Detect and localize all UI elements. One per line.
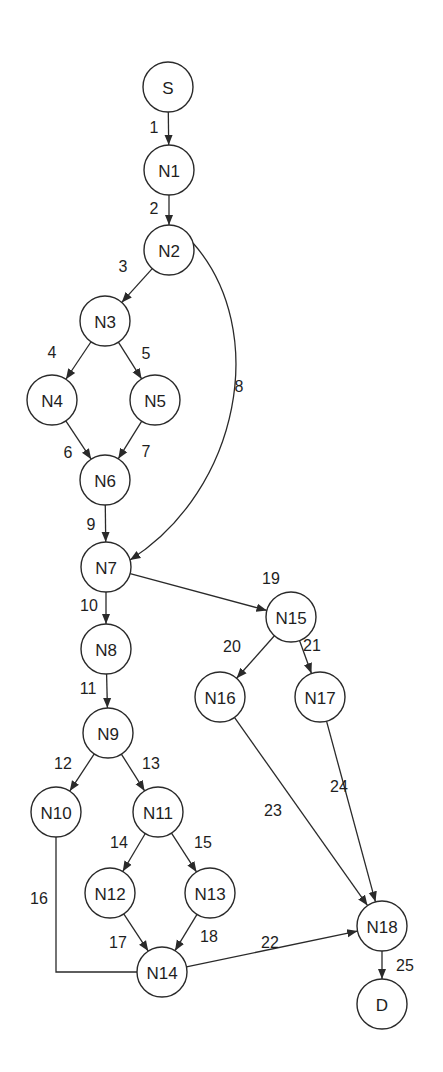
- edge-label: 22: [261, 934, 279, 951]
- node-label: N13: [194, 885, 225, 904]
- edge-label: 3: [119, 258, 128, 275]
- node-n16: N16: [195, 672, 245, 722]
- edge-label: 1: [150, 119, 159, 136]
- node-label: N3: [94, 313, 116, 332]
- node-n18: N18: [357, 901, 407, 951]
- edge-N15-N16: [237, 636, 275, 679]
- node-label: N12: [94, 885, 125, 904]
- nodes-layer: SN1N2N3N4N5N6N7N8N9N10N11N12N13N14N15N16…: [27, 62, 407, 1029]
- node-n3: N3: [80, 296, 130, 346]
- node-label: N10: [40, 804, 71, 823]
- edge-label: 12: [54, 755, 72, 772]
- edge-label: 18: [200, 928, 218, 945]
- node-n10: N10: [31, 787, 81, 837]
- node-label: N18: [366, 918, 397, 937]
- edge-label: 9: [87, 516, 96, 533]
- edge-label: 13: [142, 755, 160, 772]
- node-n2: N2: [144, 225, 194, 275]
- node-n5: N5: [130, 375, 180, 425]
- control-flow-graph: 1234567891011121314151617181920212223242…: [0, 0, 443, 1072]
- edge-N12-N14: [124, 914, 149, 951]
- node-label: N9: [97, 725, 119, 744]
- node-label: D: [376, 996, 388, 1015]
- node-n15: N15: [266, 592, 316, 642]
- node-label: N5: [144, 392, 166, 411]
- node-label: N17: [304, 689, 335, 708]
- edge-label: 11: [80, 680, 97, 697]
- node-d: D: [357, 979, 407, 1029]
- node-label: N6: [94, 472, 116, 491]
- node-label: N16: [204, 689, 235, 708]
- edge-N5-N6: [118, 421, 142, 459]
- edge-label: 25: [396, 957, 414, 974]
- edge-N11-N13: [172, 833, 197, 872]
- edge-label: 10: [80, 597, 98, 614]
- node-label: N2: [158, 242, 180, 261]
- edge-N17-N18: [327, 721, 376, 902]
- edge-label: 8: [235, 378, 244, 395]
- node-s: S: [143, 62, 193, 112]
- edge-N8-N9: [107, 674, 108, 708]
- node-n14: N14: [137, 947, 187, 997]
- edge-label: 21: [303, 637, 321, 654]
- node-label: N11: [143, 804, 173, 823]
- edge-label: 6: [64, 444, 73, 461]
- node-label: N7: [95, 559, 117, 578]
- node-n17: N17: [295, 672, 345, 722]
- node-label: N8: [95, 641, 117, 660]
- edge-label: 23: [264, 802, 282, 819]
- node-n6: N6: [80, 455, 130, 505]
- node-label: N4: [41, 392, 63, 411]
- edge-N7-N15: [130, 574, 267, 611]
- edge-N3-N4: [66, 342, 91, 379]
- node-n9: N9: [83, 708, 133, 758]
- node-label: S: [162, 79, 173, 98]
- edge-label: 19: [262, 570, 280, 587]
- edge-N16-N18: [234, 717, 367, 905]
- edge-label: 4: [48, 344, 57, 361]
- edge-label: 14: [110, 834, 128, 851]
- edge-labels-layer: 1234567891011121314151617181920212223242…: [30, 119, 414, 974]
- edge-label: 24: [330, 778, 348, 795]
- node-label: N15: [275, 609, 306, 628]
- edge-label: 7: [142, 443, 151, 460]
- node-n13: N13: [185, 868, 235, 918]
- edge-label: 2: [150, 200, 159, 217]
- node-n12: N12: [85, 868, 135, 918]
- node-label: N14: [146, 964, 177, 983]
- edge-N9-N10: [70, 754, 95, 791]
- edge-label: 15: [194, 834, 212, 851]
- node-n1: N1: [144, 145, 194, 195]
- edge-N3-N5: [118, 342, 141, 379]
- node-n7: N7: [81, 542, 131, 592]
- edge-label: 17: [109, 934, 127, 951]
- edge-label: 20: [223, 638, 241, 655]
- node-n8: N8: [81, 624, 131, 674]
- node-n4: N4: [27, 375, 77, 425]
- edge-label: 16: [30, 890, 48, 907]
- node-n11: N11: [133, 787, 183, 837]
- edge-N13-N14: [175, 914, 197, 950]
- edge-label: 5: [142, 345, 151, 362]
- node-label: N1: [158, 162, 180, 181]
